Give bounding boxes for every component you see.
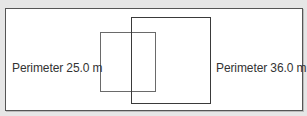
large-square (131, 17, 211, 104)
small-square-perimeter-label: Perimeter 25.0 m (12, 61, 102, 75)
diagram-frame: Perimeter 25.0 m Perimeter 36.0 m (5, 8, 303, 111)
large-square-perimeter-label: Perimeter 36.0 m (216, 61, 306, 75)
